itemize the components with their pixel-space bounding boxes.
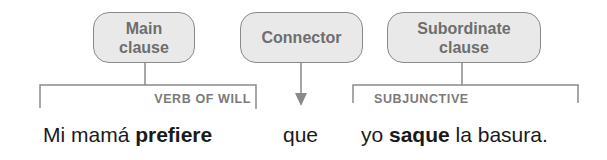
subjunctive-label: SUBJUNCTIVE [374,92,469,106]
main-clause-box: Main clause [93,12,195,63]
subordinate-clause-box-line2: clause [417,38,510,57]
subordinate-clause-box: Subordinate clause [387,12,541,63]
main-verb: prefiere [135,123,212,146]
main-clause-plain: Mi mamá [43,123,135,146]
subordinate-clause-text: yo saque la basura. [361,123,548,147]
connector-box: Connector [240,12,363,63]
subordinate-clause-box-line1: Subordinate [417,19,510,38]
connector-word: que [283,123,318,146]
subordinate-pre: yo [361,123,389,146]
subjunctive-verb: saque [389,123,450,146]
subordinate-post: la basura. [450,123,548,146]
main-clause-box-line1: Main [119,19,169,38]
verb-of-will-label: VERB OF WILL [154,92,251,106]
connector-text: que [283,123,318,147]
connector-box-label: Connector [262,28,342,47]
main-clause-text: Mi mamá prefiere [43,123,212,147]
main-clause-box-line2: clause [119,38,169,57]
